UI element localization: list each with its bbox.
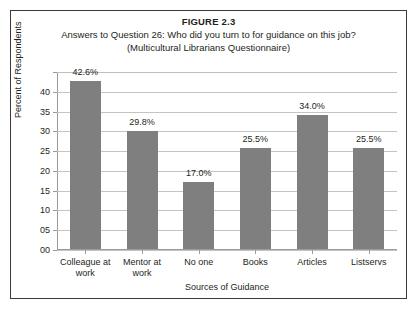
x-axis-category-label: Colleague atwork bbox=[57, 257, 114, 279]
x-axis-tick bbox=[312, 250, 313, 254]
y-axis-tick bbox=[53, 210, 57, 211]
figure-title-block: FIGURE 2.3 Answers to Question 26: Who d… bbox=[11, 15, 406, 54]
x-axis-category-label: Books bbox=[227, 257, 284, 268]
y-axis-line bbox=[57, 72, 58, 250]
bar-value-label: 42.6% bbox=[55, 68, 115, 77]
gridline bbox=[57, 250, 397, 251]
x-axis-category-label-line: work bbox=[57, 268, 114, 279]
x-axis-category-label: Mentor atwork bbox=[114, 257, 171, 279]
bar-value-label: 25.5% bbox=[339, 135, 399, 144]
y-axis-tick-label: 00 bbox=[40, 246, 50, 255]
x-axis-category-label-line: Listservs bbox=[340, 257, 397, 268]
x-axis-tick bbox=[369, 250, 370, 254]
y-axis-tick-label: 05 bbox=[40, 226, 50, 235]
bar bbox=[70, 81, 101, 250]
x-axis-title: Sources of Guidance bbox=[57, 282, 397, 293]
x-axis-category-label-line: Books bbox=[227, 257, 284, 268]
x-axis-category-label: Articles bbox=[284, 257, 341, 268]
bar-value-label: 29.8% bbox=[112, 118, 172, 127]
bar-value-label: 34.0% bbox=[282, 102, 342, 111]
x-axis-category-label-line: No one bbox=[170, 257, 227, 268]
x-axis-category-label-line: Mentor at bbox=[114, 257, 171, 268]
x-axis-category-label-line: Colleague at bbox=[57, 257, 114, 268]
gridline bbox=[57, 112, 397, 113]
y-axis-tick bbox=[53, 230, 57, 231]
y-axis-title: Percent of Respondents bbox=[13, 104, 24, 118]
y-axis-tick-label: 40 bbox=[40, 88, 50, 97]
x-axis-category-label-line: Articles bbox=[284, 257, 341, 268]
gridline bbox=[57, 92, 397, 93]
bar bbox=[353, 148, 384, 249]
bar-value-label: 17.0% bbox=[169, 169, 229, 178]
y-axis-tick bbox=[53, 112, 57, 113]
x-axis-tick bbox=[142, 250, 143, 254]
y-axis-tick bbox=[53, 131, 57, 132]
gridline bbox=[57, 210, 397, 211]
plot-background bbox=[57, 72, 397, 250]
x-axis-tick bbox=[85, 250, 86, 254]
figure-title: FIGURE 2.3 bbox=[11, 15, 406, 28]
gridline bbox=[57, 230, 397, 231]
y-axis-tick bbox=[53, 191, 57, 192]
y-axis-tick-label: 35 bbox=[40, 108, 50, 117]
x-axis-tick bbox=[199, 250, 200, 254]
plot-area: 000510152025303540 42.6%29.8%17.0%25.5%3… bbox=[57, 72, 397, 250]
x-axis-category-label: Listservs bbox=[340, 257, 397, 268]
gridline bbox=[57, 191, 397, 192]
y-axis-tick-label: 30 bbox=[40, 127, 50, 136]
bar bbox=[183, 182, 214, 249]
bar bbox=[297, 115, 328, 249]
y-axis-tick-label: 25 bbox=[40, 147, 50, 156]
figure-subtitle-line-2: (Multicultural Librarians Questionnaire) bbox=[11, 41, 406, 54]
figure-subtitle-line-1: Answers to Question 26: Who did you turn… bbox=[11, 28, 406, 41]
y-axis-tick bbox=[53, 171, 57, 172]
y-axis-tick-label: 20 bbox=[40, 167, 50, 176]
y-axis-tick bbox=[53, 151, 57, 152]
gridline bbox=[57, 151, 397, 152]
y-axis-tick-label: 10 bbox=[40, 206, 50, 215]
x-axis-category-label-line: work bbox=[114, 268, 171, 279]
y-axis-tick-label: 15 bbox=[40, 187, 50, 196]
x-axis-category-label: No one bbox=[170, 257, 227, 268]
bar bbox=[127, 131, 158, 249]
x-axis-tick bbox=[255, 250, 256, 254]
bar bbox=[240, 148, 271, 249]
y-axis-tick bbox=[53, 92, 57, 93]
y-axis-tick bbox=[53, 250, 57, 251]
bar-value-label: 25.5% bbox=[225, 135, 285, 144]
gridline bbox=[57, 131, 397, 132]
